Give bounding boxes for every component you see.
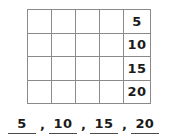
answer-value: 15 xyxy=(95,117,114,132)
answer-separator: , xyxy=(77,118,90,134)
grid-cell-blank[interactable] xyxy=(52,80,76,104)
grid-cell-blank[interactable] xyxy=(52,33,76,57)
answer-sequence-line: 5 , 10 , 15 , 20 xyxy=(8,110,171,134)
grid-cell-blank[interactable] xyxy=(76,80,100,104)
grid-cell-blank[interactable] xyxy=(52,10,76,34)
answer-separator: , xyxy=(118,118,131,134)
grid-cell-blank[interactable] xyxy=(100,57,124,81)
grid-cell-blank[interactable] xyxy=(28,10,52,34)
answer-value: 20 xyxy=(136,117,155,132)
grid-cell-value: 5 xyxy=(124,10,151,34)
grid-cell-blank[interactable] xyxy=(76,33,100,57)
grid-table: 5 10 15 xyxy=(27,9,151,104)
grid-cell-blank[interactable] xyxy=(76,57,100,81)
grid-cell-blank[interactable] xyxy=(28,33,52,57)
table-row: 10 xyxy=(28,33,151,57)
grid-cell-blank[interactable] xyxy=(100,80,124,104)
answer-blank-2[interactable]: 10 xyxy=(49,117,77,134)
answer-value: 10 xyxy=(54,117,73,132)
grid-cell-value: 20 xyxy=(124,80,151,104)
table-row: 15 xyxy=(28,57,151,81)
grid-cell-blank[interactable] xyxy=(52,57,76,81)
grid-cell-blank[interactable] xyxy=(100,10,124,34)
grid-cell-value: 15 xyxy=(124,57,151,81)
answer-blank-4[interactable]: 20 xyxy=(131,117,159,134)
answer-value: 5 xyxy=(17,117,26,132)
answer-separator: , xyxy=(36,118,49,134)
grid-cell-value: 10 xyxy=(124,33,151,57)
grid-body: 5 10 15 xyxy=(28,10,151,104)
worksheet-page: 5 10 15 xyxy=(0,0,177,136)
grid-cell-blank[interactable] xyxy=(28,57,52,81)
grid-cell-blank[interactable] xyxy=(28,80,52,104)
counting-grid: 5 10 15 xyxy=(27,9,145,103)
table-row: 5 xyxy=(28,10,151,34)
answer-blank-1[interactable]: 5 xyxy=(8,117,36,134)
grid-cell-blank[interactable] xyxy=(100,33,124,57)
table-row: 20 xyxy=(28,80,151,104)
answer-blank-3[interactable]: 15 xyxy=(90,117,118,134)
grid-cell-blank[interactable] xyxy=(76,10,100,34)
